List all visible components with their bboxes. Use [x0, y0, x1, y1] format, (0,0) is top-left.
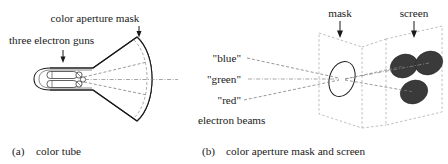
caption-a-text: color tube [36, 145, 81, 157]
panel-a-color-tube: color aperture mask three electron guns … [9, 12, 178, 158]
mask-aperture-ellipse [325, 58, 360, 100]
mask-arrow-head [337, 31, 343, 39]
gun-muzzle-center [80, 77, 85, 82]
label-screen-group: screen [400, 7, 429, 38]
screen-arrow-head [411, 31, 417, 39]
phosphor-dots-group [387, 47, 447, 108]
electron-gun-upper [47, 72, 77, 79]
tube-outline-path [34, 37, 152, 121]
guide-top [362, 39, 386, 47]
label-screen: screen [400, 7, 429, 19]
caption-b-label: (b) [202, 145, 215, 158]
label-color-aperture-mask: color aperture mask [51, 12, 140, 24]
tube-envelope [34, 37, 152, 121]
guide-bottom [362, 125, 386, 128]
beam-blue-incoming [247, 58, 339, 78]
three-electron-guns-arrow-head [61, 57, 66, 64]
figure-canvas: color aperture mask three electron guns … [0, 0, 448, 164]
label-three-electron-guns-group: three electron guns [9, 34, 94, 63]
figure-color-crt: color aperture mask three electron guns … [0, 0, 448, 164]
label-mask-group: mask [328, 7, 352, 38]
beam-red-incoming [244, 80, 339, 100]
caption-a-label: (a) [12, 145, 25, 158]
label-beam-green: "green" [207, 73, 241, 85]
caption-b-text: color aperture mask and screen [226, 145, 366, 157]
label-three-electron-guns: three electron guns [9, 34, 94, 46]
electron-gun-lower [47, 81, 77, 88]
mask-plane-outline [319, 33, 362, 128]
label-beam-blue: "blue" [213, 52, 241, 64]
label-electron-beams: electron beams [198, 114, 265, 126]
faceplate-curve [137, 37, 152, 121]
label-mask: mask [328, 7, 352, 19]
panel-b-mask-and-screen: mask screen "blue" "green" "red" electro… [198, 7, 446, 158]
label-beam-red: "red" [218, 94, 241, 106]
